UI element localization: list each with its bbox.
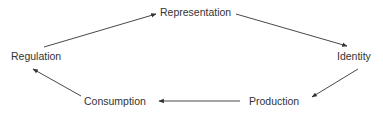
arrow-consumption-to-regulation: [33, 69, 81, 96]
arrow-regulation-to-representation: [44, 14, 156, 47]
arrow-representation-to-identity: [236, 14, 347, 46]
arrow-identity-to-production: [312, 69, 358, 97]
node-production: Production: [249, 96, 299, 107]
node-regulation: Regulation: [11, 51, 61, 62]
node-representation: Representation: [160, 7, 231, 18]
node-identity: Identity: [337, 51, 371, 62]
node-consumption: Consumption: [84, 96, 146, 107]
circuit-of-culture-diagram: Representation Identity Production Consu…: [0, 0, 383, 113]
